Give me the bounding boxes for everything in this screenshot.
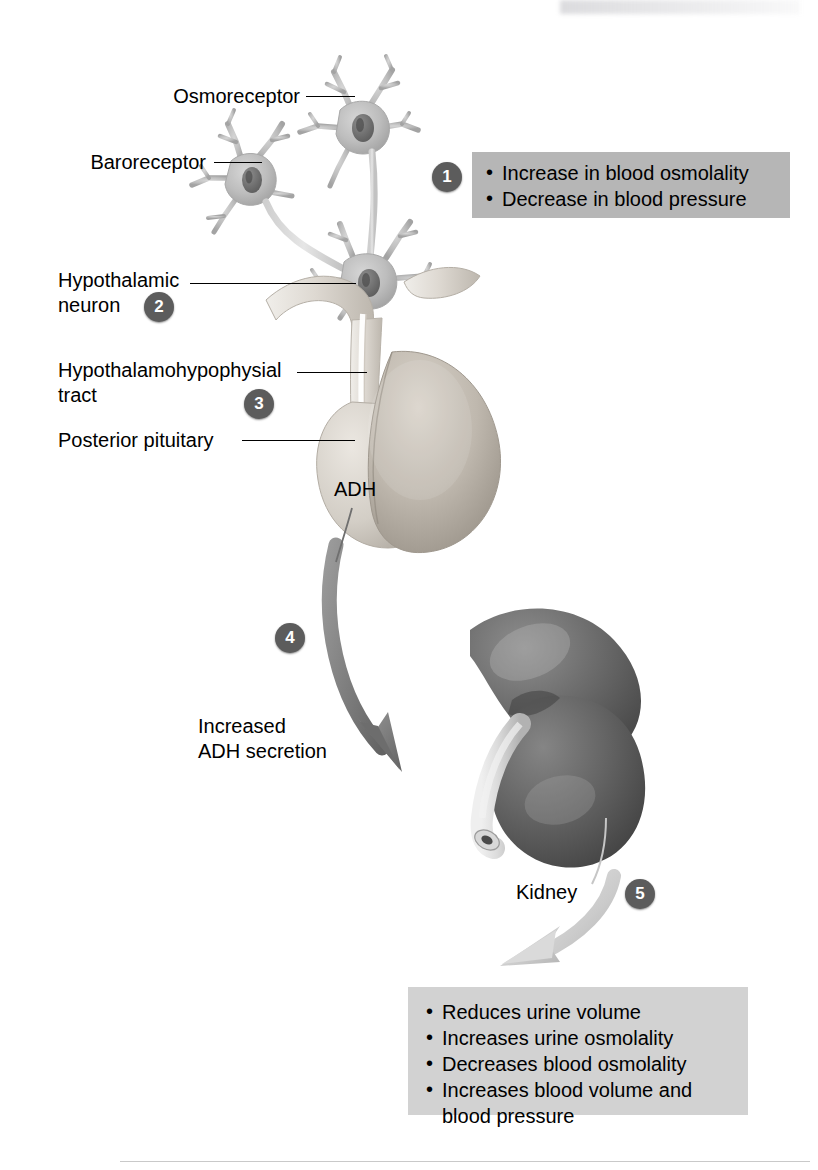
- label-kidney: Kidney: [516, 880, 626, 905]
- label-baroreceptor: Baroreceptor: [74, 150, 206, 175]
- pituitary-gland-art: [317, 351, 501, 552]
- kidney-art: [470, 609, 645, 884]
- callout-effects-item-3: Decreases blood osmolality: [426, 1051, 736, 1077]
- hypothalamic-neuron-art: [304, 222, 444, 318]
- step-badge-5[interactable]: 5: [625, 879, 655, 909]
- label-adh: ADH: [334, 477, 404, 502]
- callout-stimuli-list: Increase in blood osmolality Decrease in…: [486, 160, 778, 212]
- callout-stimuli-item-2: Decrease in blood pressure: [486, 186, 778, 212]
- adh-leader-line: [336, 508, 352, 562]
- step-badge-3[interactable]: 3: [244, 389, 274, 419]
- callout-effects-item-2: Increases urine osmolality: [426, 1025, 736, 1051]
- label-posterior-pituitary: Posterior pituitary: [58, 428, 258, 453]
- scan-artifact: [560, 0, 800, 14]
- callout-stimuli-item-1: Increase in blood osmolality: [486, 160, 778, 186]
- step-badge-2[interactable]: 2: [144, 292, 174, 322]
- leader-posterior-pituitary: [242, 440, 355, 441]
- step-badge-1[interactable]: 1: [432, 162, 462, 192]
- callout-effects: Reduces urine volume Increases urine osm…: [408, 987, 748, 1115]
- adh-regulation-figure: Osmoreceptor Baroreceptor Hypothalamic n…: [0, 0, 818, 1170]
- footer-rule: [120, 1161, 810, 1162]
- osmoreceptor-neuron-art: [300, 56, 418, 258]
- callout-effects-list: Reduces urine volume Increases urine osm…: [426, 999, 736, 1129]
- callout-effects-item-1: Reduces urine volume: [426, 999, 736, 1025]
- leader-osmoreceptor: [306, 96, 355, 97]
- baroreceptor-neuron-art: [192, 110, 342, 268]
- label-increased-adh-secretion: Increased ADH secretion: [198, 714, 418, 764]
- callout-effects-item-4: Increases blood volume and blood pressur…: [426, 1077, 736, 1129]
- leader-baroreceptor: [214, 162, 262, 163]
- callout-stimuli: Increase in blood osmolality Decrease in…: [472, 152, 790, 218]
- label-osmoreceptor: Osmoreceptor: [96, 84, 300, 109]
- step-badge-4[interactable]: 4: [275, 623, 305, 653]
